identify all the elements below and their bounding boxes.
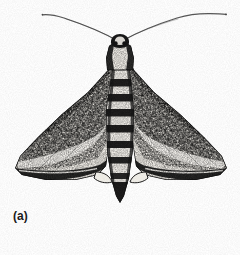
moth-illustration — [0, 0, 240, 255]
figure-label: (a) — [13, 209, 28, 223]
scan-grain-overlay — [0, 0, 240, 255]
figure-panel: (a) — [0, 0, 240, 255]
